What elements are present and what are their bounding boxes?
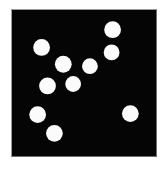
dot-marker (46, 125, 63, 142)
dot-marker (82, 58, 98, 74)
dot-marker (29, 106, 46, 123)
dot-field-panel (11, 9, 157, 157)
dot-marker (39, 78, 56, 95)
dot-marker (122, 105, 139, 122)
image-canvas (0, 0, 165, 173)
dot-marker (33, 39, 50, 56)
dot-marker (65, 76, 81, 92)
dot-scatter-plot (12, 10, 156, 156)
dot-marker (55, 56, 72, 73)
dot-marker (104, 21, 121, 38)
dot-marker (104, 45, 120, 61)
